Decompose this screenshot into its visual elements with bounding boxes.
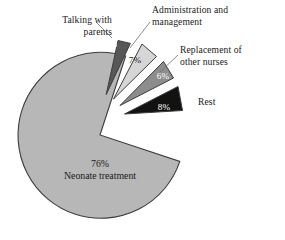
callout-label-replacement-of-other-nurses: Replacement of other nurses: [180, 44, 280, 67]
slice-value-talking-with-parents: 3%: [105, 39, 118, 49]
callout-label-talking-with-parents: Talking with parents: [28, 14, 112, 37]
callout-label-rest: Rest: [198, 96, 258, 108]
pie-chart: 3% 7% 6% 8% Talking with parents Adminis…: [0, 0, 285, 240]
callout-label-administration-and-management: Administration and management: [152, 4, 274, 27]
leader-line-administration-and-management: [130, 22, 150, 48]
slice-label-neonate-treatment: 76% Neonate treatment: [18, 158, 182, 183]
slice-value-administration-and-management: 7%: [129, 55, 142, 65]
pie-slice-rest[interactable]: [125, 87, 183, 115]
slice-value-rest: 8%: [158, 102, 171, 112]
slice-value-replacement-of-other-nurses: 6%: [157, 71, 170, 81]
